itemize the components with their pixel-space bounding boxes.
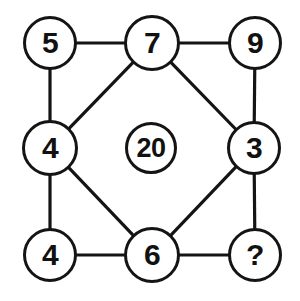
node-value-label: 9 [247, 28, 263, 58]
node-bottom-center: 6 [124, 227, 180, 283]
node-top-left: 5 [23, 16, 77, 70]
edge-middle-right-to-bottom-right [254, 174, 255, 229]
edge-top-center-to-middle-right [171, 62, 236, 129]
node-middle-right: 3 [227, 121, 281, 175]
node-value-label: 6 [144, 240, 160, 270]
node-middle-left: 4 [22, 120, 78, 176]
node-value-label: 3 [246, 133, 262, 163]
node-value-label: 7 [144, 28, 160, 58]
node-value-label: 20 [136, 135, 165, 162]
edge-middle-right-to-bottom-center [170, 167, 236, 236]
edge-top-center-to-middle-left [69, 62, 134, 129]
node-value-label: 5 [42, 28, 58, 58]
node-bottom-left: 4 [23, 228, 77, 282]
edge-middle-left-to-bottom-center [68, 167, 133, 235]
edge-top-right-to-middle-right [254, 69, 255, 122]
answer-placeholder-label: ? [246, 240, 264, 270]
node-value-label: 4 [42, 133, 58, 163]
node-top-center: 7 [124, 15, 180, 71]
node-top-right: 9 [228, 16, 282, 70]
puzzle-diagram: 579420346? [0, 0, 300, 301]
node-center: 20 [125, 122, 177, 174]
node-bottom-right[interactable]: ? [228, 228, 282, 282]
node-value-label: 4 [42, 240, 58, 270]
